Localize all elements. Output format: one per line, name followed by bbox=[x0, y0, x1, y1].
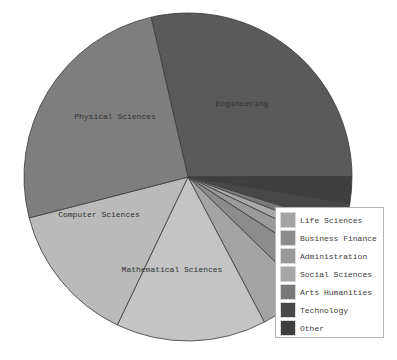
legend-label: Arts Humanities bbox=[300, 288, 372, 297]
legend-swatch bbox=[280, 230, 296, 246]
slice-label-mathematical-sciences: Mathematical Sciences bbox=[122, 265, 223, 274]
legend-item-life-sciences: Life Sciences bbox=[280, 212, 362, 228]
legend-swatch bbox=[280, 320, 296, 336]
legend-label: Life Sciences bbox=[300, 216, 362, 225]
legend-swatch bbox=[280, 284, 296, 300]
legend-item-other: Other bbox=[280, 320, 324, 336]
slice-label-computer-sciences: Computer Sciences bbox=[58, 210, 140, 219]
slice-label-engineering: Engineering bbox=[216, 99, 269, 108]
legend-item-social-sciences: Social Sciences bbox=[280, 266, 372, 282]
legend-item-arts-humanities: Arts Humanities bbox=[280, 284, 372, 300]
slice-label-physical-sciences: Physical Sciences bbox=[74, 112, 156, 121]
legend-item-business-finance: Business Finance bbox=[280, 230, 377, 246]
legend-swatch bbox=[280, 248, 296, 264]
legend-item-administration: Administration bbox=[280, 248, 367, 264]
legend-swatch bbox=[280, 212, 296, 228]
legend-label: Technology bbox=[300, 306, 348, 315]
legend-item-technology: Technology bbox=[280, 302, 348, 318]
legend-swatch bbox=[280, 302, 296, 318]
chart-legend: Life Sciences Business Finance Administr… bbox=[275, 207, 384, 338]
legend-label: Administration bbox=[300, 252, 367, 261]
legend-label: Business Finance bbox=[300, 234, 377, 243]
legend-swatch bbox=[280, 266, 296, 282]
legend-label: Other bbox=[300, 324, 324, 333]
legend-label: Social Sciences bbox=[300, 270, 372, 279]
